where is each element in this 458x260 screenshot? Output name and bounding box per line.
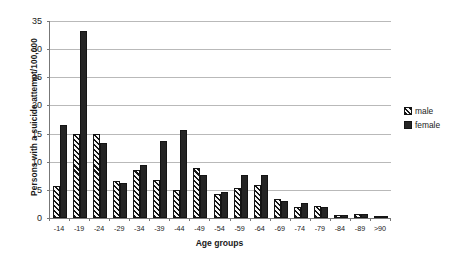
bar-male-69[interactable] [274,199,281,218]
bar-male-34[interactable] [133,170,140,218]
bar-female-64[interactable] [261,175,268,218]
x-tick-label: -59 [230,223,250,237]
bar-female-39[interactable] [160,141,167,218]
bar-group [190,21,210,218]
x-tick-mark [250,218,251,221]
x-tick-label: -84 [330,223,350,237]
x-tick-label: -49 [189,223,209,237]
x-tick-mark [290,218,291,221]
bar-group [170,21,190,218]
plot-area [49,21,391,219]
bar-female-69[interactable] [281,201,288,218]
x-tick-label: -14 [49,223,69,237]
legend-swatch-female-icon [404,121,412,129]
x-tick-label: -19 [69,223,89,237]
bar-group [371,21,391,218]
bar-group [331,21,351,218]
bar-female-24[interactable] [100,143,107,218]
x-axis-tick-marks [49,218,390,222]
suicide-attempt-bar-chart: Persons with a suicide attempt/100,000 0… [0,0,458,260]
legend-label-female: female [415,120,440,130]
bar-male-59[interactable] [234,188,241,218]
bar-male-64[interactable] [254,185,261,218]
y-tick-label: 0 [37,214,42,223]
x-tick-mark [129,218,130,221]
bar-female-54[interactable] [221,192,228,218]
bar-male-24[interactable] [93,134,100,218]
bar-group [90,21,110,218]
y-tick-label: 10 [32,157,42,166]
x-tick-mark [350,218,351,221]
bar-group [211,21,231,218]
y-tick-label: 30 [32,45,42,54]
x-tick-mark [89,218,90,221]
x-tick-label: -24 [89,223,109,237]
bar-male-19[interactable] [73,134,80,218]
bar-female-19[interactable] [80,31,87,218]
bar-group [251,21,271,218]
x-tick-mark [109,218,110,221]
x-tick-mark [390,218,391,221]
bar-female-34[interactable] [140,165,147,218]
legend-label-male: male [415,106,433,116]
x-tick-label: >90 [370,223,390,237]
x-tick-mark [230,218,231,221]
bar-male-49[interactable] [193,168,200,218]
x-axis-tick-labels: -14-19-24-29-34-39-44-49-54-59-64-69-74-… [49,223,390,237]
bar-group [110,21,130,218]
bar-male-29[interactable] [113,181,120,218]
bar-group [351,21,371,218]
bar-male-54[interactable] [214,194,221,218]
bar-female-79[interactable] [321,207,328,218]
bar-female-44[interactable] [180,130,187,218]
legend-item-male[interactable]: male [404,106,458,116]
x-tick-label: -34 [129,223,149,237]
y-tick-label: 25 [32,73,42,82]
bar-group [291,21,311,218]
x-tick-mark [49,218,50,221]
bar-male-79[interactable] [314,206,321,218]
x-tick-label: -89 [350,223,370,237]
x-tick-mark [310,218,311,221]
bar-group [50,21,70,218]
bar-female-14[interactable] [60,125,67,218]
bar-female-29[interactable] [120,183,127,218]
bar-female-74[interactable] [301,203,308,218]
x-tick-mark [169,218,170,221]
chart-legend: malefemale [404,106,458,134]
legend-swatch-male-icon [404,107,412,115]
x-tick-label: -79 [310,223,330,237]
x-tick-mark [209,218,210,221]
bar-group [231,21,251,218]
y-tick-label: 5 [37,185,42,194]
x-tick-label: -74 [290,223,310,237]
bar-group [130,21,150,218]
x-tick-mark [270,218,271,221]
bar-group [271,21,291,218]
bar-male-14[interactable] [53,186,60,218]
x-tick-label: -39 [149,223,169,237]
x-tick-mark [149,218,150,221]
bar-male-74[interactable] [294,207,301,218]
x-tick-label: -69 [270,223,290,237]
legend-item-female[interactable]: female [404,120,458,130]
y-axis-tick-labels: 05101520253035 [22,0,42,260]
x-tick-label: -64 [250,223,270,237]
bar-group [311,21,331,218]
x-tick-mark [370,218,371,221]
bar-male-39[interactable] [153,180,160,218]
x-tick-mark [69,218,70,221]
bar-group [70,21,90,218]
bar-female-49[interactable] [200,175,207,218]
bar-male-44[interactable] [173,190,180,218]
x-tick-label: -44 [169,223,189,237]
bar-group [150,21,170,218]
x-tick-mark [189,218,190,221]
y-tick-label: 15 [32,129,42,138]
x-axis-label: Age groups [49,238,390,248]
y-tick-label: 20 [32,101,42,110]
x-tick-label: -29 [109,223,129,237]
y-tick-label: 35 [32,17,42,26]
bar-female-59[interactable] [241,175,248,218]
bar-series-container [50,21,391,218]
